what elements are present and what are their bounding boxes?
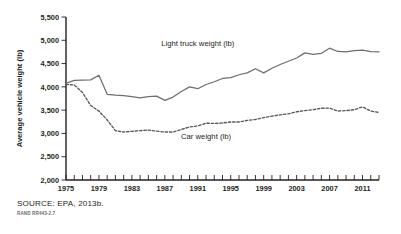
rand-report-id: RAND RR443-2.7 <box>17 212 104 217</box>
x-axis-tick-label: 1991 <box>190 184 206 193</box>
y-axis-tick-label: 3,000 <box>41 129 60 138</box>
y-axis-tick-label: 3,500 <box>41 106 60 115</box>
x-axis-tick-label: 2007 <box>321 184 337 193</box>
light-truck-weight-series-line <box>66 48 379 100</box>
y-axis-tick-label: 5,500 <box>41 13 60 22</box>
y-axis-tick-label: 2,500 <box>41 152 60 161</box>
y-axis-tick-label: 2,000 <box>41 176 60 185</box>
x-axis-tick-label: 2011 <box>355 184 371 193</box>
y-axis-tick-label: 5,000 <box>41 36 60 45</box>
y-axis-title: Average vehicle weight (lb) <box>15 49 24 147</box>
light-truck-weight-series-label: Light truck weight (lb) <box>161 39 235 48</box>
x-axis-tick-label: 1987 <box>157 184 173 193</box>
x-axis-tick-label: 1983 <box>124 184 140 193</box>
source-block: SOURCE: EPA, 2013b. RAND RR443-2.7 <box>17 200 104 217</box>
x-axis-tick-label: 1975 <box>58 184 74 193</box>
y-axis-tick-label: 4,000 <box>41 83 60 92</box>
y-axis-tick-label: 4,500 <box>41 59 60 68</box>
x-axis-tick-label: 1979 <box>91 184 107 193</box>
car-weight-series-label: Car weight (lb) <box>181 132 231 141</box>
source-note: SOURCE: EPA, 2013b. <box>17 200 104 208</box>
x-axis-tick-label: 1999 <box>255 184 271 193</box>
x-axis-tick-label: 2003 <box>288 184 304 193</box>
x-axis-tick-label: 1995 <box>223 184 239 193</box>
car-weight-series-line <box>66 85 379 133</box>
